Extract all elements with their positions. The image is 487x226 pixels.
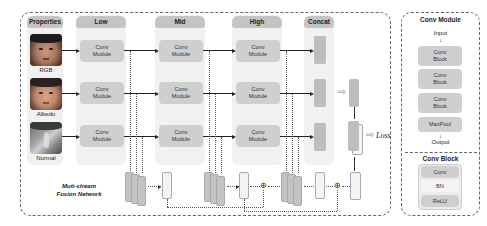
conv-module-panel-title: Conv Module [401, 16, 480, 23]
conv-module-mid-rgb: ConvModule [159, 40, 203, 62]
flow-line [280, 50, 310, 51]
normal-face-image [30, 122, 62, 154]
conv-module-low-albedo: ConvModule [80, 82, 124, 104]
arrow-head-icon [155, 92, 159, 96]
feature-stack-low [137, 176, 146, 206]
loss-label: Loss [376, 131, 391, 140]
conv-text: Conv [251, 44, 264, 50]
conv-text: Conv [95, 86, 108, 92]
flow-line [124, 136, 155, 137]
final-fused-feature [350, 172, 361, 200]
conv-text: Conv [251, 129, 264, 135]
flow-line [124, 50, 155, 51]
arrow-head-icon [155, 49, 159, 53]
concat-header: Concat [304, 16, 334, 28]
conv-layer: Conv [421, 166, 459, 178]
down-arrow-icon: ↓ [401, 37, 480, 43]
conv-block-1: ConvBlock [418, 46, 462, 66]
module-text: Module [93, 51, 111, 57]
block-line2: Block [433, 56, 447, 62]
concat-fused-bar [349, 79, 359, 107]
caption-line-1: Muti-stream [44, 182, 114, 190]
dotted-tap [142, 137, 143, 173]
output-label: Output [401, 139, 480, 145]
dotted-tap [292, 94, 293, 173]
bn-layer: BN [421, 180, 459, 192]
dotted-tap [286, 51, 287, 173]
block-line1: Conv [433, 49, 446, 55]
dotted-connector [342, 186, 350, 187]
flow-line [203, 136, 232, 137]
hollow-arrow-icon: ⇨ [364, 129, 376, 140]
flow-line [62, 93, 76, 94]
maxpool-block: MaxPool [418, 117, 462, 132]
arrow-head-icon [232, 135, 236, 139]
block-line1: MaxPool [429, 121, 451, 127]
arrow-head-icon [158, 185, 161, 189]
arrow-head-icon [76, 49, 80, 53]
relu-layer: ReLU [421, 195, 459, 207]
module-text: Module [249, 93, 267, 99]
module-text: Module [172, 51, 190, 57]
fused-feature-high [315, 172, 325, 199]
arrow-head-icon [236, 185, 239, 189]
concat-bar-rgb [314, 36, 326, 64]
network-caption: Muti-stream Fusion Network [44, 182, 114, 198]
module-text: Module [249, 136, 267, 142]
normal-label: Normal [31, 155, 61, 161]
panel-divider [405, 152, 477, 153]
dotted-tap [215, 94, 216, 173]
conv-module-high-albedo: ConvModule [236, 82, 280, 104]
conv-module-high-rgb: ConvModule [236, 40, 280, 62]
skip-connection [263, 190, 264, 207]
arrow-head-icon [76, 92, 80, 96]
conv-text: Conv [251, 86, 264, 92]
arrow-head-icon [310, 49, 314, 53]
feature-stack-high [293, 176, 302, 206]
block-line2: Block [433, 79, 447, 85]
mid-header: Mid [155, 16, 205, 28]
conv-module-low-rgb: ConvModule [80, 40, 124, 62]
fused-feature-mid [239, 172, 249, 199]
fusion-plus-icon: ⊕ [333, 181, 341, 190]
conv-module-mid-normal: ConvModule [159, 125, 203, 147]
module-text: Module [172, 93, 190, 99]
low-header: Low [76, 16, 126, 28]
albedo-face-image [30, 78, 62, 110]
concat-bar-normal [314, 123, 326, 151]
skip-connection [244, 211, 337, 212]
module-text: Module [172, 136, 190, 142]
dotted-tap [209, 51, 210, 173]
up-arrow-line [354, 157, 355, 171]
fusion-plus-icon: ⊕ [259, 181, 267, 190]
conv-text: Conv [95, 129, 108, 135]
conv-block-3: ConvBlock [418, 93, 462, 113]
flow-line [124, 93, 155, 94]
dotted-connector [326, 186, 333, 187]
skip-connection [244, 199, 245, 211]
flow-line [62, 136, 76, 137]
arrow-head-icon [310, 92, 314, 96]
dotted-connector [268, 186, 280, 187]
high-header: High [232, 16, 282, 28]
dotted-tap [221, 137, 222, 173]
module-text: Module [249, 51, 267, 57]
arrow-head-icon [76, 135, 80, 139]
arrow-head-icon [232, 49, 236, 53]
dotted-connector [304, 186, 314, 187]
arrow-head-icon [232, 92, 236, 96]
properties-header: Properties [27, 16, 63, 28]
albedo-label: Albedo [31, 111, 61, 117]
conv-module-low-normal: ConvModule [80, 125, 124, 147]
input-label: Input [401, 30, 480, 36]
arrow-head-icon [155, 135, 159, 139]
block-line2: Block [433, 103, 447, 109]
output-feature-front [348, 121, 359, 151]
arrow-head-icon [310, 135, 314, 139]
dotted-tap [130, 51, 131, 173]
down-arrow-line [354, 107, 355, 119]
skip-connection [167, 199, 168, 207]
hollow-arrow-icon: ⇨ [336, 86, 348, 97]
fused-feature-low [162, 172, 172, 199]
rgb-label: RGB [31, 67, 61, 73]
